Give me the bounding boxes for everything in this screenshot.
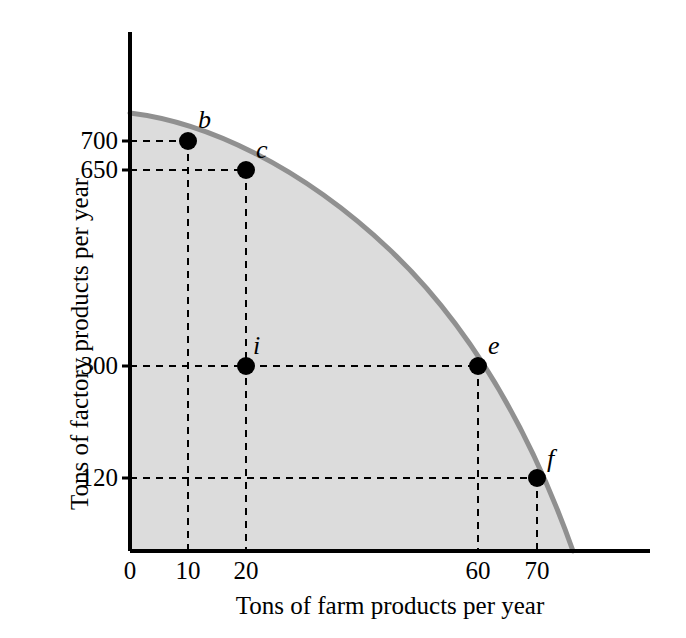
attainable-region-shading <box>130 113 573 551</box>
data-point-f[interactable] <box>528 469 546 487</box>
data-point-label-b: b <box>198 107 211 133</box>
data-point-label-c: c <box>256 137 268 163</box>
y-axis-title: Tons of factory products per year <box>66 134 94 554</box>
data-point-c[interactable] <box>237 161 255 179</box>
ppf-plot-canvas <box>0 0 686 638</box>
x-tick-label-20: 20 <box>226 558 266 583</box>
data-point-b[interactable] <box>179 132 197 150</box>
x-axis-title: Tons of farm products per year <box>130 592 650 620</box>
data-point-e[interactable] <box>469 357 487 375</box>
x-tick-label-0: 0 <box>110 558 150 583</box>
data-point-label-i: i <box>253 333 260 359</box>
x-tick-label-70: 70 <box>517 558 557 583</box>
data-point-label-f: f <box>547 446 554 472</box>
data-point-label-e: e <box>488 333 500 359</box>
x-tick-label-10: 10 <box>168 558 208 583</box>
ppf-chart-figure: 700 650 300 120 0 10 20 60 70 b c i e f … <box>0 0 686 638</box>
x-tick-label-60: 60 <box>458 558 498 583</box>
